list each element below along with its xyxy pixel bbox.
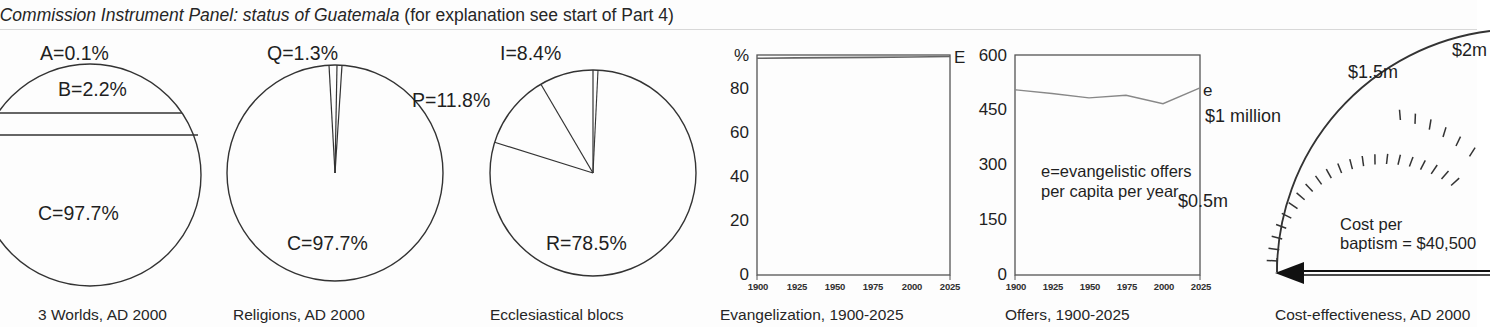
chart-annotation-line-2: per capita per year [1041, 181, 1179, 201]
chart-caption: Ecclesiastical blocs [490, 306, 624, 324]
y-tick-label: 60 [715, 123, 749, 142]
pie-slice-label-p: P=11.8% [412, 89, 490, 111]
chart-ecclesiastical-blocs: I=8.4% P=11.8% R=78.5% Ecclesiastical bl… [470, 34, 720, 327]
gauge-scale-label-0: $0.5m [1178, 191, 1228, 212]
pie-slice-label-r: R=78.5% [546, 232, 627, 254]
pie-slice-divider-sliver [593, 70, 598, 173]
pie-slice-label-c: C=97.7% [38, 202, 119, 224]
gauge-scale-label-3: $2m [1452, 40, 1487, 61]
x-tick-label: 2000 [896, 281, 928, 292]
chart-cost-effectiveness: $0.5m $1 million $1.5m $2m Cost per bapt… [1200, 34, 1477, 327]
page-title-rest: (for explanation see start of Part 4) [399, 5, 673, 25]
gauge-scale-label-2: $1.5m [1348, 62, 1398, 83]
chart-caption: 3 Worlds, AD 2000 [38, 306, 167, 324]
chart-caption: Evangelization, 1900-2025 [720, 306, 904, 324]
pie-slice-label-q: Q=1.3% [267, 42, 338, 64]
gauge-svg [1200, 34, 1490, 327]
pie-slice-label-i: I=8.4% [500, 42, 561, 64]
x-tick-label: 1950 [819, 281, 851, 292]
x-tick-label: 1925 [781, 281, 813, 292]
chart-offers: 600 450 300 150 0 1900 1925 1950 1975 20… [955, 34, 1210, 327]
series-line-E [757, 57, 950, 59]
ecclesiastical-pie-svg [470, 34, 720, 327]
chart-religions: Q=1.3% C=97.7% Religions, AD 2000 [225, 34, 465, 327]
series-line-e [1015, 88, 1200, 104]
page-title-italic: t Commission Instrument Panel: status of… [0, 5, 399, 25]
chart-caption: Cost-effectiveness, AD 2000 [1275, 306, 1470, 324]
gauge-scale-label-1: $1 million [1205, 106, 1281, 127]
x-tick-label: 1925 [1037, 281, 1069, 292]
x-tick-label: 2000 [1148, 281, 1180, 292]
y-tick-label: % [715, 46, 749, 65]
y-tick-label: 150 [963, 210, 1007, 229]
y-tick-label: 450 [963, 100, 1007, 119]
gauge-note-line-1: Cost per [1340, 214, 1402, 234]
y-tick-label: 80 [715, 79, 749, 98]
gauge-needle [1275, 262, 1490, 284]
chart-caption: Offers, 1900-2025 [1005, 306, 1130, 324]
x-tick-label: 1900 [1000, 281, 1032, 292]
pie-slice-label-c: C=97.7% [287, 232, 368, 254]
pie-slice-label-a: A=0.1% [40, 42, 109, 64]
plot-frame [757, 55, 950, 275]
y-tick-label: 20 [715, 211, 749, 230]
chart-three-worlds: A=0.1% B=2.2% C=97.7% 3 Worlds, AD 2000 [0, 34, 230, 327]
pie-slice-label-b: B=2.2% [58, 78, 127, 100]
x-tick-label: 1900 [742, 281, 774, 292]
page-title: t Commission Instrument Panel: status of… [0, 4, 990, 26]
gauge-note-line-2: baptism = $40,500 [1340, 233, 1476, 253]
y-tick-label: 300 [963, 155, 1007, 174]
pie-slice-divider-q-start [329, 65, 335, 173]
chart-annotation-line-1: e=evangelistic offers [1041, 161, 1192, 181]
y-tick-label: 600 [963, 46, 1007, 65]
y-tick-label: 40 [715, 167, 749, 186]
x-tick-label: 1975 [1111, 281, 1143, 292]
title-divider [0, 29, 1477, 30]
chart-caption: Religions, AD 2000 [233, 306, 365, 324]
chart-evangelization: % 80 60 40 20 0 1900 1925 1950 1975 2000… [715, 34, 965, 327]
x-tick-label: 1950 [1074, 281, 1106, 292]
x-tick-label: 1975 [857, 281, 889, 292]
religions-pie-svg [225, 34, 465, 327]
